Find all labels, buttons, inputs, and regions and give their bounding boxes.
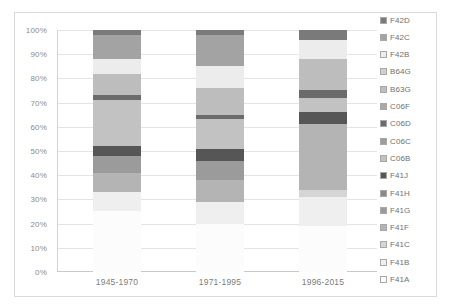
legend-label: C06B [390,154,410,163]
legend-swatch-icon [380,86,387,93]
legend-label: F41C [390,240,410,249]
legend-swatch-icon [380,17,387,24]
y-axis-tick-label: 90% [30,50,47,59]
bar-segment-F42B[interactable] [196,66,244,88]
legend-item-C06D[interactable]: C06D [380,118,411,130]
legend-item-F41A[interactable]: F41A [380,274,410,286]
bar-segment-F41C[interactable] [299,190,347,197]
bar-segment-F41F[interactable] [93,173,141,192]
legend-label: F42D [390,16,410,25]
legend-item-B63G[interactable]: B63G [380,83,411,95]
bar-segment-F41B[interactable] [93,192,141,211]
legend-swatch-icon [380,34,387,41]
legend-swatch-icon [380,68,387,75]
bar-segment-F41A[interactable] [93,211,141,272]
legend-label: C06F [390,102,410,111]
legend-swatch-icon [380,241,387,248]
legend-label: F41G [390,206,410,215]
bar-segment-F41J[interactable] [196,149,244,161]
legend-label: F41F [390,223,409,232]
bar-segment-F42C[interactable] [93,35,141,59]
legend-item-F41C[interactable]: F41C [380,239,410,251]
legend-item-F42C[interactable]: F42C [380,31,410,43]
legend-swatch-icon [380,120,387,127]
legend-label: F42B [390,50,410,59]
legend-swatch-icon [380,224,387,231]
legend-label: F42C [390,33,410,42]
bar-segment-C06B[interactable] [93,100,141,146]
legend-item-C06C[interactable]: C06C [380,135,411,147]
y-axis-tick-label: 100% [26,26,47,35]
bar-segment-F42B[interactable] [299,40,347,59]
legend-label: F41J [390,171,408,180]
y-axis-tick-label: 80% [30,74,47,83]
legend-item-F42D[interactable]: F42D [380,14,410,26]
bar-1971-1995[interactable] [196,30,244,272]
legend-swatch-icon [380,155,387,162]
y-axis-labels: 0%10%20%30%40%50%60%70%80%90%100% [0,30,52,272]
legend-item-F41J[interactable]: F41J [380,170,408,182]
legend-swatch-icon [380,138,387,145]
x-axis-tick-label: 1996-2015 [302,277,344,287]
legend-label: F41H [390,189,410,198]
legend-swatch-icon [380,207,387,214]
legend-label: C06C [390,137,411,146]
bar-segment-F41G[interactable] [93,156,141,173]
chart-legend: F42DF42CF42BB64GB63GC06FC06DC06CC06BF41J… [380,14,440,294]
bar-1996-2015[interactable] [299,30,347,272]
bar-series-container [57,30,377,272]
y-axis-tick-label: 70% [30,98,47,107]
bar-segment-F41A[interactable] [196,224,244,272]
legend-label: B63G [390,85,411,94]
legend-swatch-icon [380,190,387,197]
bar-segment-B63G[interactable] [196,88,244,115]
bar-segment-F42C[interactable] [196,35,244,66]
bar-segment-F41F[interactable] [196,180,244,202]
bar-segment-C06B[interactable] [299,98,347,113]
plot-area [57,30,377,272]
legend-item-B64G[interactable]: B64G [380,66,411,78]
bar-segment-F42B[interactable] [93,59,141,74]
legend-label: F41B [390,258,410,267]
legend-item-F41B[interactable]: F41B [380,256,410,268]
y-axis-tick-label: 40% [30,171,47,180]
x-axis-tick-label: 1945-1970 [96,277,138,287]
bar-segment-F41J[interactable] [299,112,347,124]
legend-swatch-icon [380,172,387,179]
bar-segment-F41B[interactable] [299,197,347,226]
bar-segment-C06B[interactable] [196,119,244,148]
bar-segment-F41B[interactable] [196,202,244,224]
y-axis-tick-label: 30% [30,195,47,204]
legend-item-F41G[interactable]: F41G [380,204,410,216]
legend-label: C06D [390,119,411,128]
bar-segment-C06D[interactable] [299,90,347,97]
legend-item-F41H[interactable]: F41H [380,187,410,199]
bar-segment-F41A[interactable] [299,226,347,272]
y-axis-tick-label: 10% [30,243,47,252]
bar-segment-F41J[interactable] [93,146,141,156]
bar-1945-1970[interactable] [93,30,141,272]
legend-item-C06F[interactable]: C06F [380,101,410,113]
bar-segment-F41G[interactable] [196,161,244,180]
legend-label: B64G [390,67,411,76]
legend-swatch-icon [380,51,387,58]
legend-swatch-icon [380,259,387,266]
legend-item-C06B[interactable]: C06B [380,152,410,164]
x-axis-labels: 1945-19701971-19951996-2015 [57,277,377,295]
bar-segment-B63G[interactable] [299,59,347,90]
y-axis-tick-label: 60% [30,122,47,131]
bar-segment-F41F[interactable] [299,124,347,189]
legend-swatch-icon [380,103,387,110]
stacked-bar-chart: 0%10%20%30%40%50%60%70%80%90%100% 1945-1… [0,0,451,308]
legend-item-F41F[interactable]: F41F [380,222,409,234]
x-axis-tick-label: 1971-1995 [199,277,241,287]
y-axis-tick-label: 0% [35,268,47,277]
legend-label: F41A [390,275,410,284]
bar-segment-F42D[interactable] [299,30,347,40]
y-axis-tick-label: 20% [30,219,47,228]
legend-swatch-icon [380,276,387,283]
bar-segment-B63G[interactable] [93,74,141,96]
y-axis-tick-label: 50% [30,147,47,156]
legend-item-F42B[interactable]: F42B [380,49,410,61]
